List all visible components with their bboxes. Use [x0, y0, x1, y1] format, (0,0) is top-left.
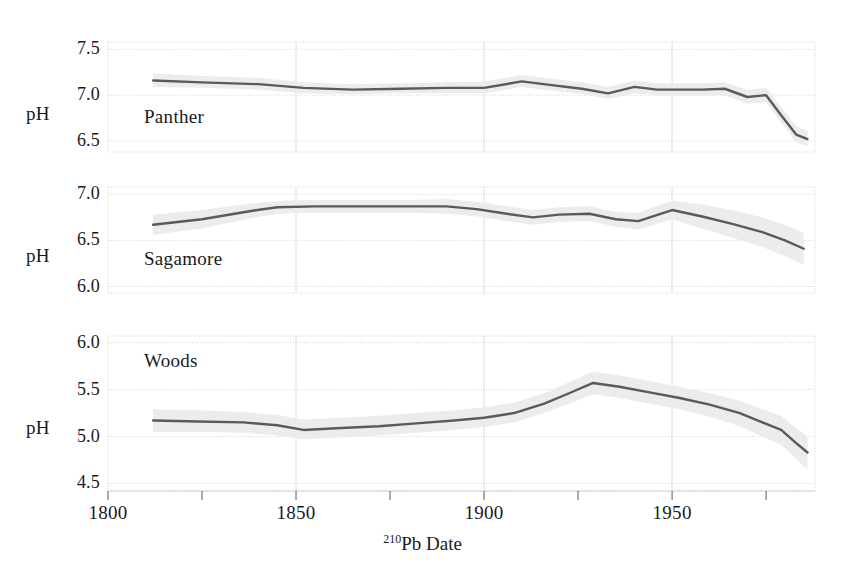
y-tick-label: 4.5 [54, 472, 100, 493]
panel-plot-panther [0, 0, 845, 575]
y-tick-label: 7.0 [54, 84, 100, 105]
figure: 6.57.07.5pHPanther6.06.57.0pHSagamore4.5… [0, 0, 845, 575]
plot-frame [108, 336, 815, 491]
panel-plot-woods [0, 0, 845, 575]
panel-label-sagamore: Sagamore [144, 248, 222, 270]
panel-label-panther: Panther [144, 106, 204, 128]
y-tick-label: 6.0 [54, 332, 100, 353]
y-axis-label: pH [26, 417, 50, 439]
x-axis-title: 210Pb Date [0, 532, 845, 555]
y-tick-label: 6.5 [54, 229, 100, 250]
y-tick-label: 6.5 [54, 130, 100, 151]
x-tick-label: 1850 [261, 502, 331, 524]
x-tick-label: 1800 [73, 502, 143, 524]
y-axis-label: pH [26, 103, 50, 125]
confidence-band [153, 199, 804, 264]
confidence-band [153, 73, 807, 146]
plot-frame [108, 187, 815, 293]
x-axis [0, 0, 845, 575]
x-tick-label: 1900 [449, 502, 519, 524]
y-tick-label: 5.0 [54, 426, 100, 447]
y-tick-label: 7.5 [54, 38, 100, 59]
trend-line [153, 206, 804, 248]
plot-frame [108, 42, 815, 152]
confidence-band [153, 372, 807, 470]
x-axis-title-superscript: 210 [383, 532, 401, 546]
trend-line [153, 81, 807, 140]
y-tick-label: 6.0 [54, 276, 100, 297]
panel-plot-sagamore [0, 0, 845, 575]
x-tick-label: 1950 [637, 502, 707, 524]
panel-label-woods: Woods [144, 350, 198, 372]
y-tick-label: 5.5 [54, 379, 100, 400]
y-axis-label: pH [26, 245, 50, 267]
y-tick-label: 7.0 [54, 183, 100, 204]
trend-line [153, 383, 807, 453]
